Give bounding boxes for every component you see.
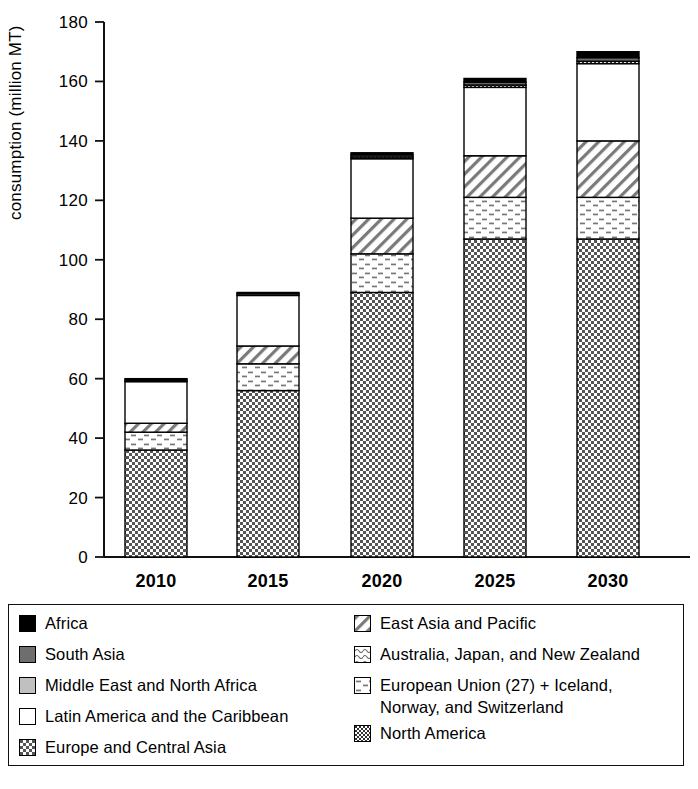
y-tick-label: 20 (68, 489, 88, 508)
x-axis-category-label: 2025 (474, 571, 515, 591)
bar-segment (577, 52, 639, 58)
legend-item-label: North America (380, 722, 486, 744)
y-tick-label: 100 (59, 251, 88, 270)
legend-item[interactable]: Europe and Central Asia (19, 736, 348, 763)
checker-fine-swatch (354, 725, 371, 742)
bar-segment (351, 153, 413, 155)
bar-segment (237, 364, 299, 391)
light-gray-swatch (19, 677, 36, 694)
bar-segment (351, 218, 413, 254)
x-axis-category-label: 2015 (247, 571, 288, 591)
y-tick-label: 160 (59, 72, 88, 91)
y-tick-label: 40 (68, 429, 88, 448)
legend-item-label: Australia, Japan, and New Zealand (380, 643, 640, 665)
y-axis-title: consumption (million MT) (6, 0, 26, 220)
bar-segment (351, 159, 413, 218)
stacked-bar-chart: 020406080100120140160180 201020152020202… (0, 0, 698, 600)
x-axis-labels: 20102015202020252030 (135, 571, 628, 591)
bar-segment (464, 87, 526, 155)
y-tick-label: 180 (59, 13, 88, 32)
solid-black-swatch (19, 615, 36, 632)
legend-item[interactable]: Africa (19, 612, 348, 639)
bar-segment (237, 292, 299, 293)
bar-segment (237, 391, 299, 557)
legend-item[interactable]: Latin America and the Caribbean (19, 705, 348, 732)
bar-segment (125, 379, 187, 380)
chart-page: 020406080100120140160180 201020152020202… (0, 0, 698, 789)
bar-segment (237, 295, 299, 346)
legend-item-label: Africa (45, 612, 88, 634)
legend-item[interactable]: Middle East and North Africa (19, 674, 348, 701)
legend-column-left: AfricaSouth AsiaMiddle East and North Af… (9, 612, 348, 765)
legend-item-label: Latin America and the Caribbean (45, 705, 288, 727)
bar-segment (464, 78, 526, 82)
y-tick-label: 0 (78, 548, 88, 567)
checker-dense-swatch (19, 739, 36, 756)
y-tick-label: 80 (68, 310, 88, 329)
bar-segment (351, 254, 413, 293)
legend-item[interactable]: Australia, Japan, and New Zealand (354, 643, 683, 670)
legend-item-label: Middle East and North Africa (45, 674, 257, 696)
bar-segment (464, 156, 526, 198)
bar-segment (351, 292, 413, 557)
y-tick-label: 60 (68, 370, 88, 389)
mid-gray-swatch (19, 646, 36, 663)
diagonal-hatch-swatch (354, 615, 371, 632)
dots-sparse-swatch (354, 677, 371, 694)
x-axis-category-label: 2010 (135, 571, 176, 591)
legend-item-label: East Asia and Pacific (380, 612, 536, 634)
legend-column-right: East Asia and PacificAustralia, Japan, a… (348, 612, 683, 765)
legend-item[interactable]: East Asia and Pacific (354, 612, 683, 639)
bar-segment (125, 423, 187, 432)
bar-segment (125, 450, 187, 557)
bar-segment (577, 239, 639, 557)
legend-item[interactable]: European Union (27) + Iceland, Norway, a… (354, 674, 683, 718)
x-axis-category-label: 2030 (587, 571, 628, 591)
bar-segment (464, 197, 526, 239)
y-tick-label: 120 (59, 191, 88, 210)
y-axis-ticks: 020406080100120140160180 (59, 13, 104, 567)
chart-plot-area: 020406080100120140160180 201020152020202… (0, 0, 698, 600)
bar-segment (464, 239, 526, 557)
bar-segment (125, 432, 187, 450)
y-tick-label: 140 (59, 132, 88, 151)
wave-dots-swatch (354, 646, 371, 663)
legend-item[interactable]: North America (354, 722, 683, 749)
chart-legend: AfricaSouth AsiaMiddle East and North Af… (8, 604, 684, 766)
bar-segment (577, 197, 639, 239)
bar-segment (237, 346, 299, 364)
bar-segment (577, 64, 639, 141)
legend-item-label: Europe and Central Asia (45, 736, 226, 758)
white-swatch (19, 708, 36, 725)
legend-item-label: European Union (27) + Iceland, Norway, a… (380, 674, 613, 718)
legend-item[interactable]: South Asia (19, 643, 348, 670)
bar-segment (577, 141, 639, 197)
legend-item-label: South Asia (45, 643, 125, 665)
x-axis-category-label: 2020 (361, 571, 402, 591)
bars-group (125, 52, 639, 557)
bar-segment (125, 382, 187, 424)
